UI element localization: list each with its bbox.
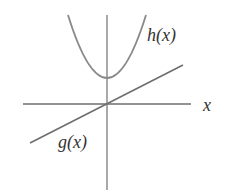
x-axis-label: x	[202, 95, 211, 115]
g-label: g(x)	[58, 132, 87, 153]
h-label: h(x)	[147, 25, 176, 46]
function-graph: h(x) g(x) x	[0, 0, 229, 194]
